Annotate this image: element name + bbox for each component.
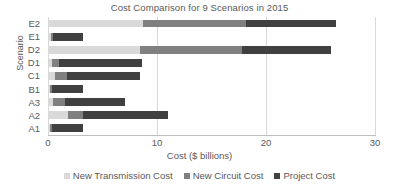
y-axis-tick-label: A1 <box>28 122 40 135</box>
bar-segment[interactable] <box>67 72 140 80</box>
chart-container: Cost Comparison for 9 Scenarios in 2015 … <box>0 0 399 192</box>
x-axis-line <box>48 135 376 136</box>
bar-segment[interactable] <box>143 20 247 28</box>
bar-segment[interactable] <box>140 46 242 54</box>
stacked-bar[interactable] <box>48 111 168 119</box>
legend-label: New Circuit Cost <box>193 170 264 181</box>
y-axis-tick-label: D1 <box>28 56 40 69</box>
bar-segment[interactable] <box>55 72 67 80</box>
y-axis-tick-label: C1 <box>28 69 40 82</box>
bar-segment[interactable] <box>48 46 140 54</box>
bar-rows <box>48 17 375 135</box>
y-axis-tick-labels: E2E1D2D1C1B1A3A2A1 <box>14 17 44 135</box>
legend-swatch-icon <box>274 173 280 179</box>
bar-segment[interactable] <box>48 111 68 119</box>
bar-row <box>48 43 375 56</box>
plot-area <box>48 17 375 135</box>
legend-item[interactable]: Project Cost <box>274 170 335 181</box>
stacked-bar[interactable] <box>48 33 83 41</box>
gridline <box>375 17 376 135</box>
legend-label: New Transmission Cost <box>73 170 173 181</box>
y-axis-tick-label: B1 <box>28 83 40 96</box>
legend-label: Project Cost <box>283 170 335 181</box>
stacked-bar[interactable] <box>48 124 83 132</box>
y-axis-tick-label: A3 <box>28 96 40 109</box>
bar-segment[interactable] <box>242 46 331 54</box>
bar-segment[interactable] <box>65 98 125 106</box>
bar-segment[interactable] <box>48 20 143 28</box>
stacked-bar[interactable] <box>48 59 142 67</box>
stacked-bar[interactable] <box>48 20 336 28</box>
legend-item[interactable]: New Circuit Cost <box>184 170 264 181</box>
x-axis-tick-label: 10 <box>152 137 163 148</box>
legend-item[interactable]: New Transmission Cost <box>64 170 173 181</box>
bar-segment[interactable] <box>68 111 83 119</box>
bar-row <box>48 56 375 69</box>
x-axis-tick-label: 30 <box>370 137 381 148</box>
stacked-bar[interactable] <box>48 46 331 54</box>
bar-segment[interactable] <box>52 85 83 93</box>
chart-legend: New Transmission CostNew Circuit CostPro… <box>0 170 399 181</box>
y-axis-tick-label: E2 <box>28 17 40 30</box>
x-axis-tick-label: 0 <box>45 137 50 148</box>
x-axis-tick-labels: 0102030 <box>0 137 399 151</box>
y-axis-tick-label: D2 <box>28 43 40 56</box>
x-axis-tick-label: 20 <box>261 137 272 148</box>
chart-title: Cost Comparison for 9 Scenarios in 2015 <box>0 2 399 13</box>
bar-row <box>48 83 375 96</box>
stacked-bar[interactable] <box>48 98 125 106</box>
stacked-bar[interactable] <box>48 85 83 93</box>
bar-row <box>48 122 375 135</box>
bar-segment[interactable] <box>53 98 65 106</box>
stacked-bar[interactable] <box>48 72 140 80</box>
bar-row <box>48 30 375 43</box>
bar-segment[interactable] <box>52 124 83 132</box>
legend-swatch-icon <box>64 173 70 179</box>
y-axis-tick-label: A2 <box>28 109 40 122</box>
bar-segment[interactable] <box>53 33 82 41</box>
y-axis-tick-label: E1 <box>28 30 40 43</box>
legend-swatch-icon <box>184 173 190 179</box>
bar-row <box>48 109 375 122</box>
bar-segment[interactable] <box>246 20 335 28</box>
bar-row <box>48 69 375 82</box>
bar-row <box>48 17 375 30</box>
bar-row <box>48 96 375 109</box>
bar-segment[interactable] <box>83 111 168 119</box>
x-axis-title: Cost ($ billions) <box>0 150 399 161</box>
bar-segment[interactable] <box>59 59 142 67</box>
